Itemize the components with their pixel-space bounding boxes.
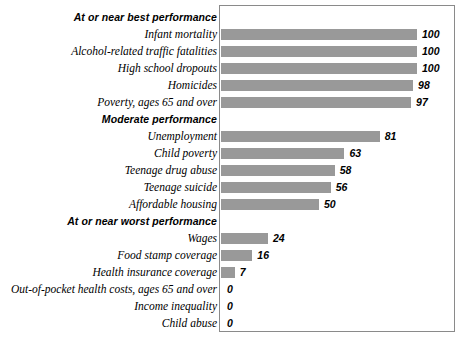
bar-container: 7 <box>221 264 453 281</box>
chart-rows: At or near best performanceInfant mortal… <box>0 9 462 332</box>
bar-container: 98 <box>221 77 453 94</box>
category-label: Affordable housing <box>129 196 217 213</box>
bar-value-label: 98 <box>418 77 430 94</box>
bar-value-label: 16 <box>257 247 269 264</box>
section-header-label: At or near worst performance <box>67 213 217 230</box>
chart-row: Health insurance coverage7 <box>0 264 462 281</box>
chart-row: Poverty, ages 65 and over97 <box>0 94 462 111</box>
bar-value-label: 81 <box>385 128 397 145</box>
section-header-row: At or near best performance <box>0 9 462 26</box>
category-label: Health insurance coverage <box>92 264 217 281</box>
chart-row: Teenage drug abuse58 <box>0 162 462 179</box>
bar-container: 0 <box>221 315 453 332</box>
bar-container: 97 <box>221 94 453 111</box>
bar-container: 100 <box>221 43 453 60</box>
bar <box>221 267 235 278</box>
bar <box>221 233 268 244</box>
bar-container: 50 <box>221 196 453 213</box>
bar <box>221 80 413 91</box>
bar-value-label: 56 <box>336 179 348 196</box>
chart-row: Alcohol-related traffic fatalities100 <box>0 43 462 60</box>
category-label: Income inequality <box>134 298 217 315</box>
category-label: Alcohol-related traffic fatalities <box>71 43 217 60</box>
section-header-row: Moderate performance <box>0 111 462 128</box>
category-label: Infant mortality <box>144 26 217 43</box>
bar-value-label: 7 <box>240 264 246 281</box>
bar-value-label: 63 <box>349 145 361 162</box>
chart-row: Teenage suicide56 <box>0 179 462 196</box>
bar-value-label: 0 <box>227 281 233 298</box>
bar <box>221 29 417 40</box>
bar <box>221 63 417 74</box>
bar-container: 16 <box>221 247 453 264</box>
bar <box>221 199 319 210</box>
chart-row: Infant mortality100 <box>0 26 462 43</box>
section-header-label: Moderate performance <box>102 111 217 128</box>
bar-value-label: 100 <box>422 43 440 60</box>
category-label: Teenage suicide <box>144 179 217 196</box>
bar <box>221 131 380 142</box>
category-label: Out-of-pocket health costs, ages 65 and … <box>11 281 217 298</box>
bar <box>221 148 344 159</box>
category-label: Child poverty <box>154 145 217 162</box>
chart-row: High school dropouts100 <box>0 60 462 77</box>
bar-container: 24 <box>221 230 453 247</box>
category-label: Poverty, ages 65 and over <box>97 94 217 111</box>
chart-row: Affordable housing50 <box>0 196 462 213</box>
chart-row: Out-of-pocket health costs, ages 65 and … <box>0 281 462 298</box>
section-header-row: At or near worst performance <box>0 213 462 230</box>
category-label: Unemployment <box>147 128 217 145</box>
category-label: Teenage drug abuse <box>125 162 217 179</box>
performance-bar-chart: At or near best performanceInfant mortal… <box>0 0 462 344</box>
chart-row: Homicides98 <box>0 77 462 94</box>
bar <box>221 250 252 261</box>
bar-container: 0 <box>221 281 453 298</box>
section-header-label: At or near best performance <box>74 9 217 26</box>
chart-row: Wages24 <box>0 230 462 247</box>
bar-value-label: 100 <box>422 60 440 77</box>
bar-container: 56 <box>221 179 453 196</box>
bar-container: 100 <box>221 26 453 43</box>
bar-value-label: 50 <box>324 196 336 213</box>
bar-value-label: 58 <box>340 162 352 179</box>
bar-container: 58 <box>221 162 453 179</box>
bar <box>221 182 331 193</box>
bar <box>221 46 417 57</box>
chart-row: Food stamp coverage16 <box>0 247 462 264</box>
chart-row: Child abuse0 <box>0 315 462 332</box>
bar-value-label: 100 <box>422 26 440 43</box>
category-label: Wages <box>187 230 217 247</box>
chart-row: Unemployment81 <box>0 128 462 145</box>
bar-container: 81 <box>221 128 453 145</box>
chart-row: Child poverty63 <box>0 145 462 162</box>
category-label: Food stamp coverage <box>117 247 217 264</box>
bar-value-label: 0 <box>227 298 233 315</box>
chart-row: Income inequality0 <box>0 298 462 315</box>
bar <box>221 165 335 176</box>
bar-container: 0 <box>221 298 453 315</box>
bar-container: 100 <box>221 60 453 77</box>
bar <box>221 97 411 108</box>
category-label: Homicides <box>168 77 217 94</box>
bar-value-label: 24 <box>273 230 285 247</box>
category-label: High school dropouts <box>118 60 217 77</box>
bar-container: 63 <box>221 145 453 162</box>
category-label: Child abuse <box>162 315 217 332</box>
bar-value-label: 0 <box>227 315 233 332</box>
bar-value-label: 97 <box>416 94 428 111</box>
